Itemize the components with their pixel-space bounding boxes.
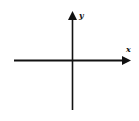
- axes-graphic: [0, 0, 139, 121]
- coordinate-axes-diagram: y x: [0, 0, 139, 121]
- x-axis-label: x: [126, 45, 131, 53]
- y-axis-arrow-icon: [68, 11, 77, 20]
- y-axis-label: y: [79, 11, 84, 19]
- x-axis-arrow-icon: [122, 56, 131, 65]
